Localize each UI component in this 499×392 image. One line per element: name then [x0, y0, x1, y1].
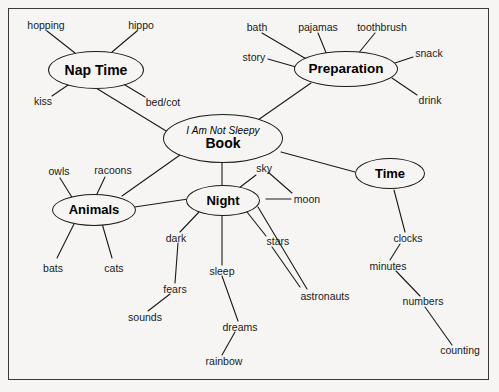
node-animals[interactable]: Animals: [52, 194, 136, 226]
edge-sky-moon: [268, 172, 292, 193]
leaf-hippo[interactable]: hippo: [128, 20, 154, 31]
leaf-clocks[interactable]: clocks: [393, 233, 422, 244]
node-time-label: Time: [375, 167, 405, 181]
leaf-bath[interactable]: bath: [247, 22, 267, 33]
leaf-bed-cot[interactable]: bed/cot: [146, 97, 180, 108]
leaf-owls[interactable]: owls: [48, 166, 69, 177]
leaf-hopping[interactable]: hopping: [27, 20, 64, 31]
node-time[interactable]: Time: [355, 158, 425, 189]
edge-dreams-rainbow: [222, 332, 235, 355]
leaf-fears[interactable]: fears: [163, 284, 186, 295]
leaf-story[interactable]: story: [243, 52, 266, 63]
leaf-kiss[interactable]: kiss: [34, 96, 52, 107]
leaf-racoons[interactable]: racoons: [94, 165, 131, 176]
mind-map-canvas: Nap Time Preparation I Am Not Sleepy Boo…: [0, 0, 499, 392]
edge-time-clocks: [394, 190, 405, 232]
edge-fears-sounds: [148, 294, 170, 311]
leaf-stars[interactable]: stars: [267, 236, 290, 247]
edge-night-astronauts: [258, 207, 307, 289]
leaf-sky[interactable]: sky: [256, 163, 272, 174]
leaf-snack[interactable]: snack: [415, 48, 442, 59]
node-nap-time-label: Nap Time: [65, 63, 128, 78]
leaf-bats[interactable]: bats: [43, 263, 63, 274]
leaf-numbers[interactable]: numbers: [403, 296, 444, 307]
edge-prep-drink: [392, 78, 417, 95]
edge-dark-fears: [175, 243, 178, 283]
edge-animals-cats: [101, 220, 112, 258]
leaf-cats[interactable]: cats: [104, 263, 123, 274]
leaf-moon[interactable]: moon: [294, 194, 320, 205]
node-night-label: Night: [206, 194, 239, 208]
edge-book-preparation: [258, 83, 311, 120]
leaf-dark[interactable]: dark: [166, 233, 186, 244]
node-animals-label: Animals: [69, 203, 120, 217]
leaf-rainbow[interactable]: rainbow: [206, 356, 243, 367]
leaf-pajamas[interactable]: pajamas: [298, 22, 338, 33]
edge-sleep-dreams: [222, 276, 238, 321]
edge-clocks-minutes: [390, 244, 400, 260]
leaf-minutes[interactable]: minutes: [370, 261, 407, 272]
node-book-label: Book: [206, 136, 241, 151]
node-preparation-label: Preparation: [308, 62, 383, 76]
leaf-astronauts[interactable]: astronauts: [300, 291, 349, 302]
node-night[interactable]: Night: [186, 185, 260, 216]
edge-book-time: [281, 152, 355, 172]
leaf-toothbrush[interactable]: toothbrush: [357, 22, 407, 33]
edge-minutes-numbers: [396, 271, 420, 296]
leaf-sounds[interactable]: sounds: [128, 312, 162, 323]
leaf-drink[interactable]: drink: [419, 95, 442, 106]
edge-animals-night: [128, 199, 188, 208]
edge-numbers-counting: [425, 307, 452, 345]
edge-naptime-hippo: [112, 31, 137, 52]
edge-night-sky: [239, 175, 256, 188]
edge-night-dark: [180, 212, 199, 232]
leaf-dreams[interactable]: dreams: [222, 322, 257, 333]
node-book-central[interactable]: I Am Not Sleepy Book: [163, 114, 283, 163]
edge-prep-bath: [262, 33, 308, 60]
node-preparation[interactable]: Preparation: [294, 51, 398, 87]
node-nap-time[interactable]: Nap Time: [48, 51, 144, 89]
edge-naptime-hopping: [47, 31, 75, 53]
leaf-sleep[interactable]: sleep: [209, 266, 234, 277]
leaf-counting[interactable]: counting: [440, 345, 480, 356]
